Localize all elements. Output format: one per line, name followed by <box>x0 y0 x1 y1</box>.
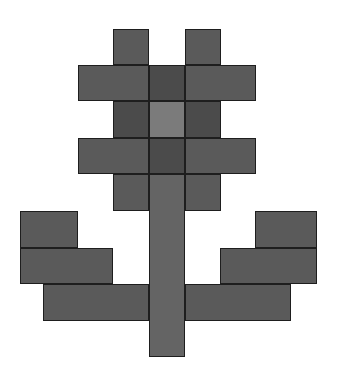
leaf-right-middle-block <box>220 248 317 284</box>
petal-lower-left-block <box>78 138 149 174</box>
petal-bottom-left-block <box>113 174 149 211</box>
flower-center-block <box>149 101 185 138</box>
petal-top-left-block <box>113 29 149 65</box>
petal-top-right-block <box>185 29 221 65</box>
leaf-right-bottom-block <box>185 284 291 321</box>
petal-mid-left-block <box>113 101 149 138</box>
petal-lower-center-block <box>149 138 185 174</box>
leaf-left-top-block <box>20 211 78 248</box>
petal-mid-right-block <box>185 101 221 138</box>
petal-upper-right-block <box>185 65 256 101</box>
stem-block <box>149 174 185 357</box>
petal-lower-right-block <box>185 138 256 174</box>
leaf-right-top-block <box>255 211 317 248</box>
leaf-left-bottom-block <box>43 284 149 321</box>
petal-bottom-right-block <box>185 174 221 211</box>
leaf-left-middle-block <box>20 248 113 284</box>
petal-upper-center-block <box>149 65 185 101</box>
petal-upper-left-block <box>78 65 149 101</box>
flower-canvas <box>0 0 337 383</box>
